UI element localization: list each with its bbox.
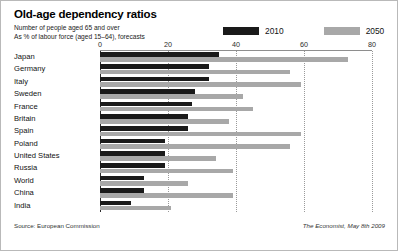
bar-2050 <box>100 82 301 87</box>
legend-swatch-icon-2050 <box>324 27 360 35</box>
category-label: Russia <box>14 162 98 174</box>
bar-2050 <box>100 94 243 99</box>
bar-2010 <box>100 126 188 131</box>
bar-row <box>100 200 372 212</box>
bar-2050 <box>100 70 290 75</box>
x-tick-label: 20 <box>164 40 172 49</box>
bar-row <box>100 113 372 125</box>
bar-2050 <box>100 193 233 198</box>
bar-2010 <box>100 114 188 119</box>
bar-2010 <box>100 188 144 193</box>
bar-2010 <box>100 52 219 57</box>
bar-2010 <box>100 176 144 181</box>
legend-item-2010: 2010 <box>223 27 284 35</box>
bar-2050 <box>100 57 348 62</box>
bar-row <box>100 76 372 88</box>
legend-label-2050: 2050 <box>366 27 385 35</box>
category-label: Spain <box>14 125 98 137</box>
bar-2050 <box>100 169 233 174</box>
category-label: Britain <box>14 113 98 125</box>
bar-2050 <box>100 107 253 112</box>
bar-row <box>100 187 372 199</box>
economist-chart-figure: Old-age dependency ratios Number of peop… <box>0 0 398 251</box>
x-tick-label: 0 <box>98 40 102 49</box>
category-label: Germany <box>14 63 98 75</box>
bar-row <box>100 88 372 100</box>
category-label: France <box>14 101 98 113</box>
x-tick-label: 60 <box>300 40 308 49</box>
x-axis-tick-labels: 020406080 <box>100 40 372 50</box>
bar-rows <box>100 51 372 212</box>
bar-2010 <box>100 77 209 82</box>
chart-footer: Source: European Commission The Economis… <box>14 222 385 229</box>
bar-2050 <box>100 156 216 161</box>
bar-2050 <box>100 119 229 124</box>
bar-2050 <box>100 132 301 137</box>
bar-2010 <box>100 201 131 206</box>
y-axis-category-labels: JapanGermanyItalySwedenFranceBritainSpai… <box>14 51 98 212</box>
bar-2010 <box>100 151 165 156</box>
bar-row <box>100 63 372 75</box>
legend-label-2010: 2010 <box>265 27 284 35</box>
bar-2010 <box>100 102 192 107</box>
gridline <box>372 51 373 212</box>
legend-item-2050: 2050 <box>324 27 385 35</box>
bar-2010 <box>100 163 165 168</box>
bar-2010 <box>100 64 209 69</box>
bar-row <box>100 101 372 113</box>
category-label: Poland <box>14 138 98 150</box>
chart-title: Old-age dependency ratios <box>14 8 264 21</box>
bar-row <box>100 138 372 150</box>
bar-row <box>100 150 372 162</box>
bar-2050 <box>100 181 188 186</box>
bar-2010 <box>100 139 165 144</box>
chart-header: Old-age dependency ratios Number of peop… <box>14 8 264 41</box>
category-label: Sweden <box>14 88 98 100</box>
bar-2050 <box>100 206 171 211</box>
source-note: Source: European Commission <box>14 222 100 229</box>
category-label: United States <box>14 150 98 162</box>
category-label: World <box>14 175 98 187</box>
x-tick-label: 40 <box>232 40 240 49</box>
bar-row <box>100 125 372 137</box>
bar-row <box>100 162 372 174</box>
category-label: China <box>14 187 98 199</box>
category-label: India <box>14 200 98 212</box>
category-label: Italy <box>14 76 98 88</box>
bar-2010 <box>100 89 195 94</box>
category-label: Japan <box>14 51 98 63</box>
bar-row <box>100 51 372 63</box>
plot-area <box>100 51 372 212</box>
bar-2050 <box>100 144 290 149</box>
bar-row <box>100 175 372 187</box>
legend-swatch-icon-2010 <box>223 27 259 35</box>
x-tick-label: 80 <box>368 40 376 49</box>
publication-credit: The Economist, May 8th 2009 <box>303 222 385 229</box>
chart-legend: 2010 2050 <box>223 27 384 35</box>
